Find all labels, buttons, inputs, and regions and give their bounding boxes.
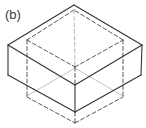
hidden-edge — [27, 68, 75, 96]
figure-label: (b) — [5, 8, 21, 22]
outer-box-bottom-edge — [8, 75, 75, 112]
outer-box-top-edge — [74, 5, 142, 45]
inner-box-top-edge — [74, 10, 123, 40]
outer-box-top-edge — [8, 45, 75, 85]
outer-box-top-edge — [75, 45, 142, 85]
outer-box-vertical-edge — [141, 45, 142, 75]
inner-box-top-edge — [27, 10, 74, 40]
hidden-edge — [75, 68, 123, 96]
inner-box-back-edge — [74, 10, 75, 67]
inner-box-top-edge — [75, 40, 123, 67]
inner-box-bottom-edge — [27, 97, 75, 123]
inner-box-top-edge — [27, 40, 75, 67]
inner-box-bottom-edge — [75, 97, 123, 123]
box-diagram — [0, 0, 146, 128]
outer-box-bottom-edge — [75, 75, 141, 112]
